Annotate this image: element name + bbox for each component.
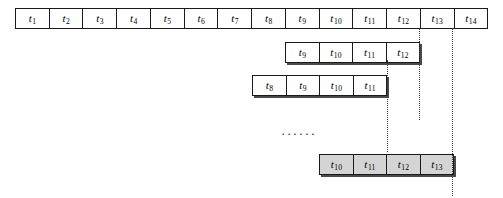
timestep-index: 11 — [367, 51, 375, 60]
timestep-cell: t11 — [354, 155, 388, 174]
sequence-row-window-t9-t12: t9t10t11t12 — [285, 42, 420, 63]
timestep-label: t11 — [364, 47, 375, 58]
timestep-label: t8 — [266, 80, 273, 91]
timestep-label: t12 — [397, 47, 408, 58]
timestep-label: t5 — [164, 13, 171, 24]
timestep-label: t11 — [364, 159, 375, 170]
timestep-cell: t13 — [421, 155, 455, 174]
timestep-index: 11 — [368, 84, 376, 93]
timestep-index: 6 — [201, 17, 205, 26]
timestep-label: t10 — [330, 47, 341, 58]
timestep-index: 10 — [334, 84, 342, 93]
timestep-index: 10 — [334, 163, 342, 172]
timestep-label: t6 — [197, 13, 204, 24]
timestep-index: 14 — [469, 17, 477, 26]
timestep-label: t13 — [431, 159, 442, 170]
sliding-window-diagram: t1t2t3t4t5t6t7t8t9t10t11t12t13t14t9t10t1… — [0, 0, 503, 198]
timestep-cell: t10 — [320, 43, 354, 62]
timestep-cell: t3 — [83, 9, 117, 28]
timestep-label: t10 — [331, 159, 342, 170]
timestep-index: 9 — [302, 51, 306, 60]
timestep-index: 5 — [167, 17, 171, 26]
timestep-index: 12 — [401, 51, 409, 60]
timestep-cell: t10 — [320, 155, 354, 174]
alignment-guide-guide-t13-end — [452, 28, 453, 196]
timestep-index: 12 — [401, 17, 409, 26]
timestep-label: t12 — [398, 159, 409, 170]
timestep-index: 9 — [303, 84, 307, 93]
timestep-index: 8 — [268, 17, 272, 26]
alignment-guide-guide-t11-end — [387, 60, 388, 152]
timestep-label: t14 — [465, 13, 476, 24]
timestep-cell: t4 — [117, 9, 151, 28]
timestep-index: 13 — [435, 163, 443, 172]
timestep-cell: t12 — [387, 155, 421, 174]
timestep-label: t13 — [432, 13, 443, 24]
continuation-ellipsis: ······ — [281, 127, 317, 140]
timestep-index: 11 — [368, 17, 376, 26]
timestep-index: 2 — [66, 17, 70, 26]
timestep-index: 8 — [269, 84, 273, 93]
sequence-row-full-timeline: t1t2t3t4t5t6t7t8t9t10t11t12t13t14 — [15, 8, 488, 29]
timestep-cell: t10 — [320, 76, 354, 95]
timestep-cell: t9 — [286, 43, 320, 62]
timestep-label: t1 — [29, 13, 36, 24]
timestep-index: 4 — [134, 17, 138, 26]
timestep-label: t3 — [96, 13, 103, 24]
timestep-label: t9 — [299, 47, 306, 58]
timestep-cell: t6 — [185, 9, 219, 28]
timestep-label: t2 — [62, 13, 69, 24]
timestep-index: 7 — [235, 17, 239, 26]
timestep-index: 9 — [302, 17, 306, 26]
timestep-label: t7 — [231, 13, 238, 24]
timestep-index: 12 — [401, 163, 409, 172]
timestep-cell: t9 — [286, 9, 320, 28]
timestep-cell: t5 — [151, 9, 185, 28]
timestep-cell: t10 — [320, 9, 354, 28]
timestep-cell: t11 — [353, 9, 387, 28]
timestep-label: t10 — [331, 80, 342, 91]
timestep-label: t9 — [299, 13, 306, 24]
timestep-cell: t8 — [252, 9, 286, 28]
timestep-cell: t13 — [421, 9, 455, 28]
timestep-index: 11 — [368, 163, 376, 172]
timestep-label: t11 — [364, 13, 375, 24]
timestep-cell: t11 — [354, 76, 388, 95]
timestep-label: t10 — [330, 13, 341, 24]
timestep-label: t9 — [299, 80, 306, 91]
timestep-cell: t11 — [353, 43, 387, 62]
timestep-cell: t9 — [287, 76, 321, 95]
timestep-label: t11 — [364, 80, 375, 91]
sequence-row-window-t8-t11: t8t9t10t11 — [252, 75, 387, 96]
timestep-index: 1 — [32, 17, 36, 26]
timestep-cell: t14 — [455, 9, 489, 28]
timestep-index: 3 — [100, 17, 104, 26]
timestep-cell: t2 — [50, 9, 84, 28]
timestep-cell: t1 — [16, 9, 50, 28]
timestep-cell: t8 — [253, 76, 287, 95]
sequence-row-window-t10-t13: t10t11t12t13 — [319, 154, 454, 175]
timestep-label: t12 — [398, 13, 409, 24]
timestep-index: 13 — [435, 17, 443, 26]
timestep-cell: t12 — [387, 9, 421, 28]
timestep-label: t8 — [265, 13, 272, 24]
timestep-cell: t7 — [218, 9, 252, 28]
timestep-cell: t12 — [387, 43, 421, 62]
timestep-index: 10 — [334, 17, 342, 26]
timestep-index: 10 — [334, 51, 342, 60]
timestep-label: t4 — [130, 13, 137, 24]
alignment-guide-guide-t12-end — [419, 28, 420, 120]
